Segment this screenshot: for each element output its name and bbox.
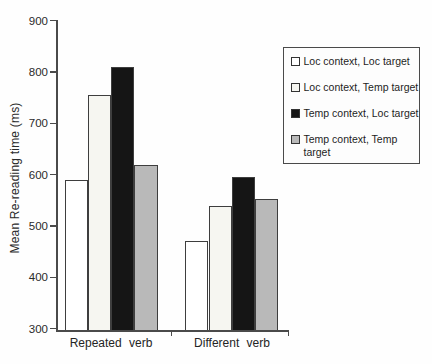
y-tick-mark (50, 225, 56, 226)
legend-swatch-loc-temp (291, 83, 300, 92)
bar (185, 241, 208, 331)
y-tick-label: 800 (16, 65, 48, 79)
legend-label: Temp context, Temp target (304, 133, 416, 158)
y-tick-label: 700 (16, 116, 48, 130)
category-label-repeated-verb: Repeated verb (41, 336, 181, 351)
y-tick-mark (50, 20, 56, 21)
y-tick-label: 300 (16, 322, 48, 336)
y-tick-mark (50, 71, 56, 72)
legend-item-loc-loc: Loc context, Loc target (291, 55, 415, 68)
bar (111, 67, 134, 331)
category-label-different-verb: Different verb (162, 336, 302, 351)
legend-label: Loc context, Temp target (304, 81, 419, 94)
bar (65, 180, 88, 331)
legend-label: Temp context, Loc target (304, 107, 419, 120)
y-tick-mark (50, 174, 56, 175)
legend: Loc context, Loc target Loc context, Tem… (283, 47, 420, 164)
legend-swatch-temp-temp (291, 135, 300, 144)
legend-item-temp-temp: Temp context, Temp target (291, 133, 415, 158)
legend-item-loc-temp: Loc context, Temp target (291, 81, 415, 94)
y-axis-line (56, 20, 58, 331)
legend-label: Loc context, Loc target (304, 55, 410, 68)
bar (88, 95, 111, 331)
bar (209, 206, 232, 331)
legend-swatch-temp-loc (291, 109, 300, 118)
bar-chart-figure: Mean Re-reading time (ms) 30040050060070… (0, 0, 432, 364)
legend-item-temp-loc: Temp context, Loc target (291, 107, 415, 120)
x-axis-line (56, 330, 289, 332)
y-tick-label: 900 (16, 14, 48, 28)
y-tick-label: 500 (16, 219, 48, 233)
bar (255, 199, 278, 331)
legend-swatch-loc-loc (291, 57, 300, 66)
bar (134, 165, 157, 331)
y-tick-label: 400 (16, 270, 48, 284)
y-tick-mark (50, 123, 56, 124)
y-tick-mark (50, 277, 56, 278)
y-tick-label: 600 (16, 168, 48, 182)
bar (232, 177, 255, 331)
